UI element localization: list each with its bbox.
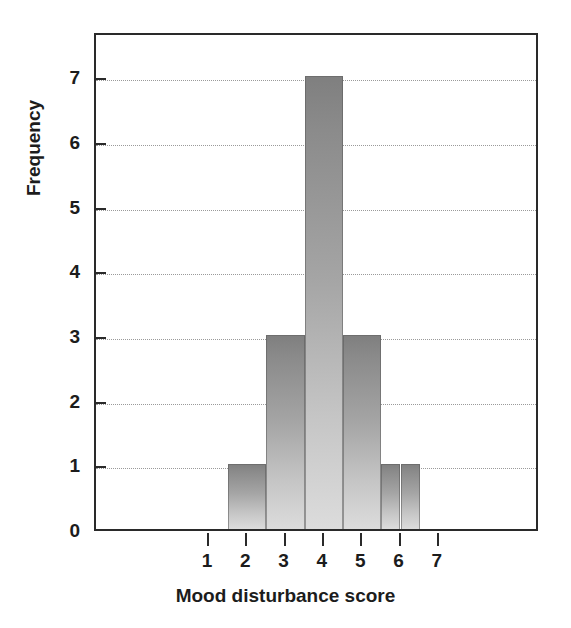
x-tick-label-2: 2: [232, 551, 258, 570]
x-tick-mark-5: [360, 533, 362, 546]
x-tick-mark-7: [437, 533, 439, 546]
x-tick-mark-1: [207, 533, 209, 546]
y-tick-label-4: 4: [46, 262, 80, 281]
y-tick-label-0: 0: [46, 521, 80, 540]
y-tick-mark-7: [94, 78, 106, 80]
x-tick-label-7: 7: [424, 551, 450, 570]
y-tick-label-3: 3: [46, 327, 80, 346]
x-tick-mark-6: [399, 533, 401, 546]
x-tick-mark-2: [245, 533, 247, 546]
y-tick-label-5: 5: [46, 198, 80, 217]
bar-bin-1: [266, 335, 304, 529]
bar-bin-4: [381, 464, 400, 529]
bar-bin-2: [305, 76, 343, 529]
y-tick-label-2: 2: [46, 392, 80, 411]
x-tick-mark-3: [284, 533, 286, 546]
x-tick-label-3: 3: [271, 551, 297, 570]
x-tick-label-5: 5: [347, 551, 373, 570]
y-tick-label-1: 1: [46, 456, 80, 475]
bar-bin-3: [343, 335, 381, 529]
y-tick-mark-1: [94, 466, 106, 468]
bar-bin-0: [228, 464, 266, 529]
plot-area: [94, 33, 538, 531]
y-tick-mark-3: [94, 337, 106, 339]
y-tick-mark-4: [94, 272, 106, 274]
x-tick-mark-4: [322, 533, 324, 546]
y-tick-mark-5: [94, 208, 106, 210]
y-tick-mark-6: [94, 143, 106, 145]
bars-group: [96, 35, 536, 529]
y-tick-label-6: 6: [46, 133, 80, 152]
x-axis-title: Mood disturbance score: [0, 585, 571, 607]
x-tick-label-1: 1: [194, 551, 220, 570]
bar-bin-5: [401, 464, 420, 529]
x-tick-label-4: 4: [309, 551, 335, 570]
y-tick-label-7: 7: [46, 68, 80, 87]
y-tick-mark-2: [94, 402, 106, 404]
x-tick-label-6: 6: [386, 551, 412, 570]
histogram-figure: Frequency 01234567 1234567 Mood disturba…: [0, 0, 571, 628]
